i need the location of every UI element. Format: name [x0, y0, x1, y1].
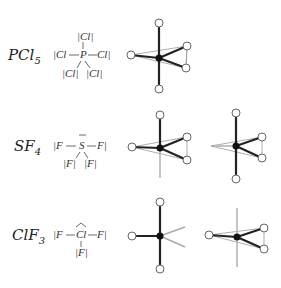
central-atom-icon: [234, 234, 241, 241]
ligand-atom-icon: [232, 109, 240, 117]
central-atom-icon: [157, 145, 164, 152]
ligand-atom-icon: [183, 42, 191, 50]
sf4-geometry-axial-lp: [128, 111, 191, 178]
ligand-atom-icon: [260, 224, 268, 232]
sf4-geometry-equatorial-lp: [211, 109, 266, 183]
ligand-atom-icon: [156, 265, 164, 273]
ligand-atom-icon: [260, 245, 268, 253]
ligand-atom-icon: [182, 64, 190, 72]
ligand-atom-icon: [183, 133, 191, 141]
central-atom-icon: [157, 233, 164, 240]
clf3-geometry-alternative: [205, 208, 268, 267]
ligand-atom-icon: [156, 198, 164, 206]
ligand-atom-icon: [183, 156, 191, 164]
central-atom-icon: [156, 55, 163, 62]
ligand-atom-icon: [232, 175, 240, 183]
central-atom-icon: [233, 143, 240, 150]
ligand-atom-icon: [156, 111, 164, 119]
ligand-atom-icon: [155, 85, 163, 93]
ligand-atom-icon: [258, 154, 266, 162]
ligand-atom-icon: [155, 19, 163, 27]
ligand-atom-icon: [205, 231, 213, 239]
clf3-geometry-t-shaped: [128, 198, 185, 273]
geometry-diagrams: .b { stroke: #222; stroke-width: 2.2; st…: [0, 0, 281, 288]
ligand-atom-icon: [127, 51, 135, 59]
pcl5-geometry: [127, 19, 191, 93]
ligand-atom-icon: [128, 232, 136, 240]
ligand-atom-icon: [258, 133, 266, 141]
ligand-atom-icon: [128, 143, 136, 151]
